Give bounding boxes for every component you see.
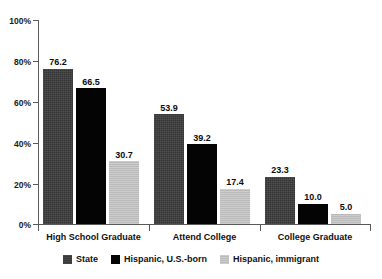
- bar-college-graduate-state[interactable]: [265, 177, 295, 225]
- chart-legend: State Hispanic, U.S.-born Hispanic, immi…: [0, 254, 382, 264]
- y-axis-tick-text: 60%: [14, 98, 31, 108]
- y-axis-tick-text: 100%: [9, 16, 31, 26]
- bar-value-label: 30.7: [109, 150, 139, 160]
- bar-value-label: 23.3: [265, 165, 295, 175]
- y-axis-tick-label-40: 40%: [0, 139, 31, 149]
- x-axis-category-label-high-school-graduate: High School Graduate: [38, 232, 149, 242]
- bar-value-label: 5.0: [331, 202, 361, 212]
- bar-attend-college-hispanic-us-born[interactable]: [187, 144, 217, 224]
- legend-item-hispanic-us-born[interactable]: Hispanic, U.S.-born: [111, 254, 207, 264]
- legend-swatch-icon: [63, 255, 72, 264]
- bar-value-label: 17.4: [220, 177, 250, 187]
- legend-item-hispanic-immigrant[interactable]: Hispanic, immigrant: [220, 254, 319, 264]
- bar-high-school-graduate-hispanic-us-born[interactable]: [76, 88, 106, 224]
- x-axis-tick-mark: [370, 225, 371, 231]
- x-axis-category-label-attend-college: Attend College: [149, 232, 260, 242]
- x-axis-category-label-college-graduate: College Graduate: [260, 232, 370, 242]
- legend-item-label: State: [76, 254, 98, 264]
- grouped-bar-chart: 100% 80% 60% 40% 20% 0%: [0, 0, 382, 279]
- y-axis-tick-label-80: 80%: [0, 57, 31, 67]
- bar-value-label: 10.0: [298, 192, 328, 202]
- y-axis-tick-label-0: 0%: [0, 220, 31, 230]
- y-axis-tick-text: 0%: [19, 220, 31, 230]
- bar-high-school-graduate-state[interactable]: [43, 69, 73, 224]
- bar-college-graduate-hispanic-us-born[interactable]: [298, 204, 328, 224]
- y-axis-tick-label-20: 20%: [0, 180, 31, 190]
- legend-item-label: Hispanic, immigrant: [233, 254, 319, 264]
- bar-value-label: 53.9: [154, 103, 184, 113]
- bar-attend-college-hispanic-immigrant[interactable]: [220, 189, 250, 225]
- legend-swatch-icon: [220, 255, 229, 264]
- y-axis-tick-text: 40%: [14, 139, 31, 149]
- y-axis-tick-text: 80%: [14, 57, 31, 67]
- legend-item-state[interactable]: State: [63, 254, 98, 264]
- legend-item-label: Hispanic, U.S.-born: [124, 254, 207, 264]
- bar-college-graduate-hispanic-immigrant[interactable]: [331, 214, 361, 224]
- bar-value-label: 39.2: [187, 133, 217, 143]
- bar-high-school-graduate-hispanic-immigrant[interactable]: [109, 161, 139, 224]
- bar-value-label: 66.5: [76, 77, 106, 87]
- y-axis-tick-text: 20%: [14, 180, 31, 190]
- legend-swatch-icon: [111, 255, 120, 264]
- y-axis-tick-label-60: 60%: [0, 98, 31, 108]
- y-axis-tick-label-100: 100%: [0, 16, 31, 26]
- x-axis-tick-mark: [149, 225, 150, 231]
- x-axis-line: [38, 224, 371, 225]
- x-axis-tick-mark: [38, 225, 39, 231]
- bar-value-label: 76.2: [43, 57, 73, 67]
- x-axis-tick-mark: [260, 225, 261, 231]
- bar-attend-college-state[interactable]: [154, 114, 184, 224]
